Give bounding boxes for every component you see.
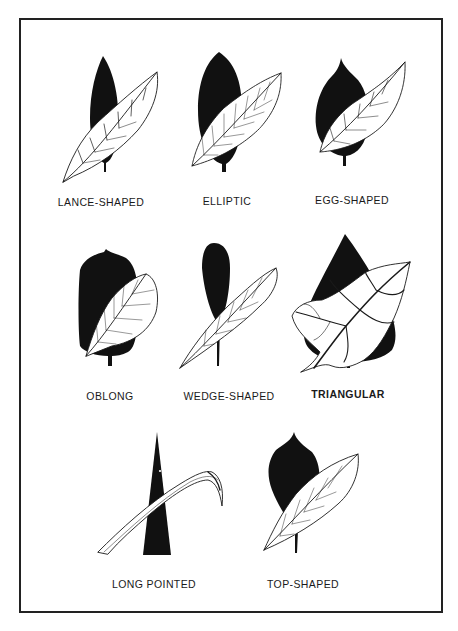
label-oblong: OBLONG — [86, 390, 133, 402]
label-lance-shaped: LANCE-SHAPED — [58, 196, 145, 208]
leaf-shapes-illustration — [0, 0, 458, 631]
top-shaped-leaf-icon — [264, 432, 358, 553]
oblong-leaf-icon — [79, 249, 158, 366]
label-long-pointed: LONG POINTED — [112, 578, 196, 590]
label-elliptic: ELLIPTIC — [203, 195, 252, 207]
label-triangular: TRIANGULAR — [311, 388, 384, 400]
elliptic-leaf-icon — [192, 52, 281, 172]
label-egg-shaped: EGG-SHAPED — [315, 194, 389, 206]
label-top-shaped: TOP-SHAPED — [267, 578, 339, 590]
egg-shaped-leaf-icon — [316, 58, 405, 166]
triangular-leaf-icon — [292, 234, 410, 372]
long-pointed-leaf-icon — [98, 432, 223, 555]
lance-shaped-leaf-icon — [63, 56, 158, 182]
label-wedge-shaped: WEDGE-SHAPED — [183, 390, 274, 402]
wedge-shaped-leaf-icon — [180, 243, 277, 368]
